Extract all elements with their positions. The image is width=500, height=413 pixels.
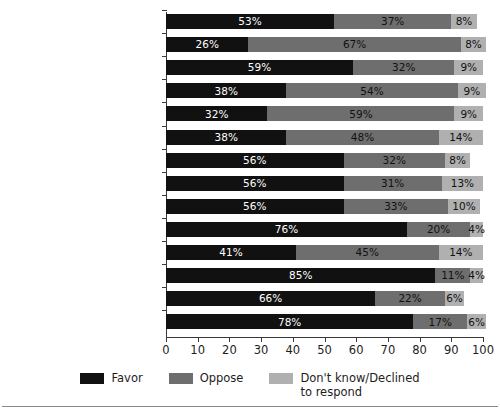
segment-value-label: 85%: [289, 270, 312, 281]
bar-segment-oppose: 31%: [344, 176, 442, 191]
segment-value-label: 76%: [275, 224, 298, 235]
bar-segment-don: 14%: [439, 245, 483, 260]
segment-value-label: 56%: [243, 178, 266, 189]
y-axis-tick: [162, 79, 167, 80]
x-axis-tick-label: 70: [371, 344, 405, 357]
segment-value-label: 4%: [468, 224, 485, 235]
segment-value-label: 4%: [468, 270, 485, 281]
x-axis-tick: [166, 337, 167, 342]
bar-segment-don: 8%: [445, 153, 470, 168]
segment-value-label: 67%: [343, 39, 366, 50]
segment-value-label: 37%: [381, 16, 404, 27]
stacked-bar: 38%54%9%: [166, 83, 486, 98]
y-axis-tick: [162, 126, 167, 127]
bar-segment-favor: 32%: [166, 106, 267, 121]
bar-segment-don: 8%: [461, 37, 486, 52]
bar-segment-don: 4%: [470, 222, 483, 237]
bar-row: Hispanic Catholic56%31%13%: [166, 176, 483, 191]
stacked-bar: 41%45%14%: [166, 245, 483, 260]
bar-row: White mainline Protestant59%32%9%: [166, 60, 483, 75]
stacked-bar: 56%33%10%: [166, 199, 480, 214]
segment-value-label: 10%: [452, 201, 475, 212]
bar-row: All Americans53%37%8%: [166, 14, 483, 29]
y-axis-tick: [162, 33, 167, 34]
legend-item: Oppose: [169, 371, 244, 385]
y-axis-tick: [162, 218, 167, 219]
segment-value-label: 41%: [219, 247, 242, 258]
bar-segment-don: 4%: [470, 268, 483, 283]
stacked-bar: 32%59%9%: [166, 106, 483, 121]
bar-segment-oppose: 48%: [286, 130, 438, 145]
x-axis-tick-label: 30: [244, 344, 278, 357]
stacked-bar: 56%32%8%: [166, 153, 470, 168]
segment-value-label: 32%: [392, 62, 415, 73]
bar-segment-oppose: 32%: [353, 60, 454, 75]
bar-segment-oppose: 11%: [435, 268, 470, 283]
x-axis-tick: [261, 337, 262, 342]
x-axis-tick-label: 40: [276, 344, 310, 357]
y-axis-tick: [162, 310, 167, 311]
y-axis-tick: [162, 149, 167, 150]
bar-row: Buddhist85%11%4%: [166, 268, 483, 283]
stacked-bar-chart: All Americans53%37%8%White evangelical P…: [0, 0, 500, 413]
bar-segment-favor: 26%: [166, 37, 248, 52]
bar-segment-oppose: 37%: [334, 14, 451, 29]
bar-segment-oppose: 22%: [375, 291, 445, 306]
bar-segment-favor: 41%: [166, 245, 296, 260]
bar-segment-favor: 53%: [166, 14, 334, 29]
bar-row: Jewish76%20%4%: [166, 222, 483, 237]
segment-value-label: 17%: [429, 317, 452, 328]
bar-segment-favor: 56%: [166, 176, 344, 191]
segment-value-label: 53%: [238, 16, 261, 27]
segment-value-label: 56%: [243, 201, 266, 212]
bar-segment-oppose: 67%: [248, 37, 460, 52]
x-axis-tick: [356, 337, 357, 342]
legend-item: Don't know/Declined to respond: [269, 371, 419, 399]
legend-item: Favor: [80, 371, 142, 385]
chart-legend: FavorOpposeDon't know/Declined to respon…: [0, 371, 500, 399]
segment-value-label: 59%: [349, 109, 372, 120]
bar-segment-don: 8%: [451, 14, 476, 29]
segment-value-label: 6%: [468, 317, 485, 328]
bar-row: White Catholic56%32%8%: [166, 153, 483, 168]
x-axis-tick-label: 10: [181, 344, 215, 357]
x-axis-tick: [420, 337, 421, 342]
y-axis-tick: [162, 195, 167, 196]
segment-value-label: 8%: [449, 155, 466, 166]
stacked-bar: 59%32%9%: [166, 60, 483, 75]
legend-label: Favor: [111, 371, 142, 385]
bar-segment-don: 9%: [458, 83, 487, 98]
stacked-bar: 78%17%6%: [166, 314, 486, 329]
bar-segment-oppose: 32%: [344, 153, 445, 168]
segment-value-label: 56%: [243, 155, 266, 166]
segment-value-label: 13%: [451, 178, 474, 189]
segment-value-label: 20%: [427, 224, 450, 235]
y-axis-tick: [162, 264, 167, 265]
bar-segment-don: 6%: [445, 291, 464, 306]
bar-segment-favor: 78%: [166, 314, 413, 329]
segment-value-label: 6%: [446, 293, 463, 304]
x-axis-tick-label: 90: [434, 344, 468, 357]
bottom-divider: [2, 406, 498, 407]
segment-value-label: 45%: [356, 247, 379, 258]
segment-value-label: 11%: [441, 270, 464, 281]
stacked-bar: 38%48%14%: [166, 130, 483, 145]
segment-value-label: 32%: [383, 155, 406, 166]
bar-segment-oppose: 33%: [344, 199, 449, 214]
segment-value-label: 14%: [449, 132, 472, 143]
x-axis-tick: [388, 337, 389, 342]
y-axis-tick: [162, 102, 167, 103]
bar-segment-favor: 38%: [166, 130, 286, 145]
bar-row: Other non-White Protestant38%48%14%: [166, 130, 483, 145]
plot-area: All Americans53%37%8%White evangelical P…: [166, 12, 483, 337]
bar-row: White evangelical Protestant26%67%8%: [166, 37, 483, 52]
stacked-bar: 76%20%4%: [166, 222, 483, 237]
legend-swatch: [80, 373, 104, 384]
bar-row: Hispanic Protestant32%59%9%: [166, 106, 483, 121]
x-axis-tick: [229, 337, 230, 342]
x-axis-tick-label: 100: [466, 344, 500, 357]
stacked-bar: 66%22%6%: [166, 291, 464, 306]
bar-segment-favor: 85%: [166, 268, 435, 283]
y-axis-tick: [162, 287, 167, 288]
segment-value-label: 38%: [215, 86, 238, 97]
